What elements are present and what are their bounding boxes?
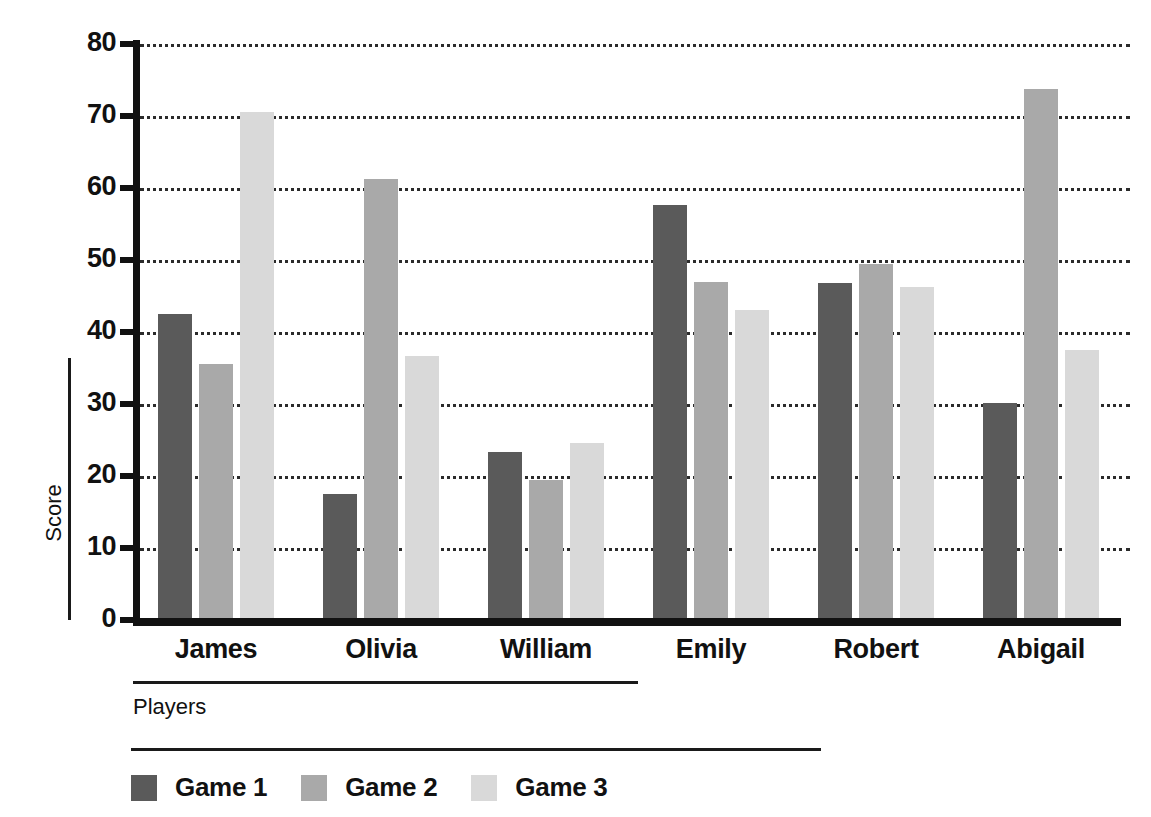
bar[interactable] xyxy=(859,264,893,620)
bar[interactable] xyxy=(405,356,439,620)
legend-swatch xyxy=(301,775,327,801)
x-axis-title-rule xyxy=(133,681,638,684)
y-axis-tick-label: 0 xyxy=(46,605,116,632)
legend-item[interactable]: Game 1 xyxy=(131,772,267,803)
bar[interactable] xyxy=(158,314,192,620)
y-axis-tick xyxy=(120,41,134,47)
bar-group xyxy=(488,44,604,620)
bar[interactable] xyxy=(1065,350,1099,620)
legend-label: Game 2 xyxy=(345,772,437,803)
y-axis-tick xyxy=(120,329,134,335)
y-axis-tick-label: 70 xyxy=(46,101,116,128)
bar[interactable] xyxy=(488,452,522,620)
legend-label: Game 1 xyxy=(175,772,267,803)
y-axis-title: Score xyxy=(41,453,67,573)
y-axis-tick-label: 50 xyxy=(46,245,116,272)
bar-group xyxy=(323,44,439,620)
bar[interactable] xyxy=(983,403,1017,620)
bar[interactable] xyxy=(653,205,687,620)
bar[interactable] xyxy=(570,443,604,620)
x-axis-title: Players xyxy=(133,694,206,720)
bar[interactable] xyxy=(529,480,563,620)
y-axis-tick-label: 60 xyxy=(46,173,116,200)
y-axis-title-rule xyxy=(68,358,71,620)
bar-group xyxy=(818,44,934,620)
y-axis-tick xyxy=(120,473,134,479)
bar[interactable] xyxy=(364,179,398,620)
bar[interactable] xyxy=(694,282,728,620)
legend-label: Game 3 xyxy=(515,772,607,803)
bar[interactable] xyxy=(818,283,852,620)
bar[interactable] xyxy=(323,494,357,620)
bar[interactable] xyxy=(1024,89,1058,620)
legend-rule xyxy=(131,748,821,751)
bar[interactable] xyxy=(199,364,233,620)
x-axis-tick-label: Abigail xyxy=(941,634,1141,665)
bar-chart: 80706050403020100 Score JamesOliviaWilli… xyxy=(0,0,1151,817)
legend: Game 1Game 2Game 3 xyxy=(131,772,641,803)
y-axis-tick-label: 40 xyxy=(46,317,116,344)
bar-group xyxy=(158,44,274,620)
y-axis-tick xyxy=(120,113,134,119)
bar-group xyxy=(983,44,1099,620)
y-axis-tick xyxy=(120,545,134,551)
y-axis-line xyxy=(133,40,140,624)
y-axis-tick xyxy=(120,617,134,623)
y-axis-tick xyxy=(120,401,134,407)
y-axis-tick-label: 30 xyxy=(46,389,116,416)
y-axis-tick xyxy=(120,257,134,263)
bar[interactable] xyxy=(900,287,934,620)
x-axis-line xyxy=(133,618,1121,626)
bar-groups xyxy=(140,44,1130,620)
legend-item[interactable]: Game 2 xyxy=(301,772,437,803)
y-axis-tick-label: 80 xyxy=(46,29,116,56)
bar[interactable] xyxy=(240,112,274,620)
bar-group xyxy=(653,44,769,620)
y-axis-tick xyxy=(120,185,134,191)
legend-swatch xyxy=(471,775,497,801)
legend-swatch xyxy=(131,775,157,801)
bar[interactable] xyxy=(735,310,769,620)
legend-item[interactable]: Game 3 xyxy=(471,772,607,803)
